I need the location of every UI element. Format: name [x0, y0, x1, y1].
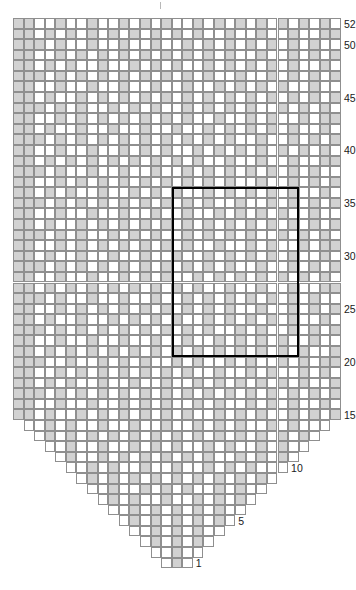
- chart-cell: [66, 156, 77, 167]
- chart-cell: [267, 187, 278, 198]
- chart-cell: [320, 103, 331, 114]
- chart-cell: [55, 71, 66, 82]
- chart-cell: [246, 484, 257, 495]
- chart-cell: [320, 219, 331, 230]
- chart-cell: [267, 399, 278, 410]
- chart-cell: [151, 378, 162, 389]
- chart-cell: [98, 494, 109, 505]
- chart-cell: [13, 283, 24, 294]
- chart-cell: [161, 39, 172, 50]
- chart-cell: [87, 272, 98, 283]
- chart-cell: [278, 39, 289, 50]
- chart-cell: [330, 208, 341, 219]
- chart-cell: [24, 103, 35, 114]
- chart-cell: [87, 399, 98, 410]
- chart-cell: [225, 92, 236, 103]
- chart-cell: [330, 367, 341, 378]
- chart-cell: [129, 187, 140, 198]
- chart-cell: [182, 187, 193, 198]
- chart-cell: [34, 304, 45, 315]
- chart-cell: [76, 124, 87, 135]
- chart-cell: [55, 39, 66, 50]
- chart-cell: [76, 367, 87, 378]
- chart-cell: [108, 113, 119, 124]
- chart-cell: [182, 420, 193, 431]
- chart-cell: [288, 81, 299, 92]
- chart-cell: [140, 240, 151, 251]
- chart-cell: [214, 388, 225, 399]
- chart-cell: [182, 92, 193, 103]
- chart-cell: [45, 420, 56, 431]
- chart-cell: [299, 124, 310, 135]
- chart-cell: [193, 462, 204, 473]
- chart-cell: [161, 187, 172, 198]
- chart-cell: [108, 314, 119, 325]
- chart-cell: [214, 452, 225, 463]
- chart-cell: [193, 441, 204, 452]
- chart-cell: [278, 462, 289, 473]
- chart-cell: [98, 71, 109, 82]
- chart-cell: [98, 314, 109, 325]
- chart-cell: [108, 251, 119, 262]
- chart-cell: [203, 219, 214, 230]
- chart-cell: [119, 357, 130, 368]
- chart-cell: [288, 431, 299, 442]
- chart-cell: [140, 314, 151, 325]
- chart-cell: [98, 134, 109, 145]
- chart-cell: [203, 536, 214, 547]
- chart-cell: [182, 113, 193, 124]
- chart-cell: [140, 230, 151, 241]
- chart-cell: [172, 399, 183, 410]
- chart-cell: [278, 409, 289, 420]
- chart-cell: [214, 420, 225, 431]
- chart-cell: [66, 409, 77, 420]
- chart-cell: [246, 134, 257, 145]
- chart-cell: [235, 261, 246, 272]
- chart-cell: [119, 388, 130, 399]
- chart-cell: [299, 156, 310, 167]
- chart-cell: [45, 29, 56, 40]
- chart-cell: [225, 124, 236, 135]
- chart-cell: [203, 484, 214, 495]
- chart-cell: [309, 346, 320, 357]
- chart-cell: [278, 208, 289, 219]
- chart-cell: [330, 71, 341, 82]
- chart-cell: [225, 452, 236, 463]
- chart-cell: [320, 60, 331, 71]
- chart-cell: [267, 293, 278, 304]
- chart-cell: [288, 325, 299, 336]
- chart-cell: [278, 50, 289, 61]
- chart-cell: [256, 325, 267, 336]
- chart-cell: [98, 103, 109, 114]
- chart-cell: [98, 346, 109, 357]
- chart-cell: [55, 230, 66, 241]
- chart-cell: [299, 166, 310, 177]
- chart-cell: [24, 420, 35, 431]
- chart-cell: [288, 293, 299, 304]
- chart-cell: [129, 420, 140, 431]
- chart-cell: [76, 335, 87, 346]
- chart-cell: [45, 388, 56, 399]
- chart-cell: [45, 335, 56, 346]
- chart-cell: [129, 156, 140, 167]
- chart-cell: [299, 60, 310, 71]
- chart-cell: [172, 92, 183, 103]
- chart-cell: [98, 50, 109, 61]
- chart-cell: [161, 304, 172, 315]
- chart-cell: [76, 462, 87, 473]
- chart-cell: [55, 325, 66, 336]
- chart-cell: [203, 431, 214, 442]
- chart-cell: [13, 177, 24, 188]
- chart-cell: [161, 103, 172, 114]
- chart-cell: [87, 166, 98, 177]
- chart-cell: [278, 71, 289, 82]
- chart-cell: [214, 494, 225, 505]
- chart-cell: [161, 240, 172, 251]
- chart-cell: [330, 81, 341, 92]
- chart-cell: [151, 219, 162, 230]
- chart-cell: [256, 60, 267, 71]
- chart-cell: [299, 240, 310, 251]
- chart-cell: [13, 18, 24, 29]
- chart-cell: [235, 113, 246, 124]
